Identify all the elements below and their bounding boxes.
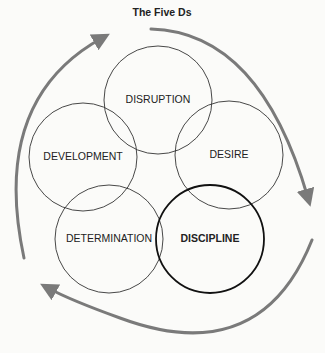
- label-development: DEVELOPMENT: [43, 150, 123, 162]
- five-ds-diagram: The Five Ds DISRUPTIONDEVELOPMENTDESIRED…: [0, 0, 325, 353]
- diagram-title: The Five Ds: [133, 6, 192, 18]
- arrow-top-right: [151, 29, 308, 198]
- cycle-arrows: [16, 29, 312, 333]
- circles-group: DISRUPTIONDEVELOPMENTDESIREDETERMINATION…: [29, 46, 283, 293]
- label-determination: DETERMINATION: [66, 232, 152, 244]
- arrow-left: [16, 38, 102, 258]
- arrow-bottom: [48, 240, 312, 333]
- label-disruption: DISRUPTION: [126, 93, 191, 105]
- label-discipline: DISCIPLINE: [181, 232, 240, 244]
- label-desire: DESIRE: [209, 148, 248, 160]
